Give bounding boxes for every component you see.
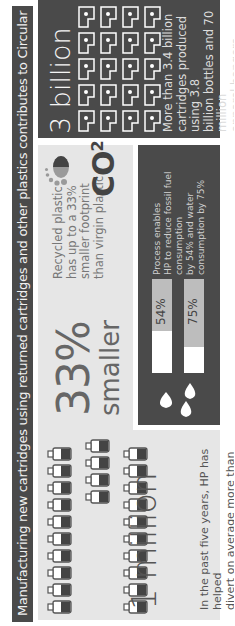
footprint-icon [44,149,74,189]
fossil-fuel-bar-label: 54% [154,298,168,325]
cartridge-icon [100,6,117,28]
cartridge-icon [122,32,139,54]
percent-stat: 33% [52,321,96,416]
cartridge-icon [122,84,139,106]
co2-label: CO2 [82,141,120,197]
bottle-icon [46,566,72,580]
bottle-icon [84,490,110,504]
cartridge-icon [122,6,139,28]
one-million-stat: 1 million [124,473,164,610]
bottles-caption: In the past five years, HP has helped di… [198,430,234,610]
caption-line: cartridges produced using 3.8 [176,0,203,132]
bottles-panel: 1 million In the past five years, HP has… [38,430,220,620]
bottle-icon [46,464,72,478]
bottle-icon [84,473,110,487]
cartridge-icon [122,110,139,132]
co2-text: CO [86,151,121,197]
bottle-icon [46,532,72,546]
caption-line: by 54% and water [185,147,196,275]
bottle-icon [46,549,72,563]
bottle-icon [46,447,72,461]
cartridge-icon [144,58,161,80]
bottle-icon [46,583,72,597]
cartridge-icon [100,110,117,132]
three-billion-stat: 3 billion [46,27,76,134]
infographic-title: Manufacturing new cartridges using retur… [12,6,33,622]
caption-line: In the past five years, HP has helped [198,430,224,610]
cartridge-icon [144,32,161,54]
cartridge-row [144,6,161,132]
cartridge-row [78,6,95,132]
cartridge-icon [78,110,95,132]
caption-line: Process enables [152,147,163,275]
bottle-row [46,447,72,614]
cartridge-icon [100,32,117,54]
caption-line: billion bottles and 70 million [203,0,230,132]
water-drops-icon [156,379,202,421]
cartridge-icon [78,6,95,28]
bottle-row [84,439,110,504]
bottle-icon [84,439,110,453]
caption-line: apparel hangers [230,0,235,132]
bottle-icon [46,481,72,495]
cartridge-icon [78,32,95,54]
water-panel: 54% 75% Process enables HP to reduce fos… [138,145,220,425]
cartridge-row [100,6,117,132]
footprint-panel: Recycled plastic has up to a 33% smaller… [38,145,133,285]
billion-caption: More than 3.4 billion cartridges produce… [162,0,234,132]
bottle-icon [46,600,72,614]
cartridge-grid [78,6,166,132]
three-billion-panel: 3 billion More than 3.4 billion cartridg… [38,0,220,138]
cartridge-icon [78,84,95,106]
cartridge-row [122,6,139,132]
infographic: Manufacturing new cartridges using retur… [0,0,234,626]
water-caption: Process enables HP to reduce fossil fuel… [152,147,207,275]
co2-subscript: 2 [88,141,107,151]
smaller-label: smaller [96,320,124,416]
cartridge-icon [144,6,161,28]
caption-line: divert on average more than [224,430,234,610]
bottle-icon [122,447,148,461]
cartridge-icon [122,58,139,80]
bottle-icon [46,498,72,512]
caption-line: consumption [174,147,185,275]
cartridge-icon [100,58,117,80]
caption-line: HP to reduce fossil fuel [163,147,174,275]
percent-smaller-panel: 33% smaller [38,285,133,430]
cartridge-icon [78,58,95,80]
caption-line: More than 3.4 billion [162,0,176,132]
cartridge-icon [100,84,117,106]
caption-line: consumption by 75% [196,147,207,275]
bottle-icon [46,515,72,529]
cartridge-icon [144,84,161,106]
water-bar-label: 75% [186,298,200,325]
cartridge-icon [144,110,161,132]
bottle-icon [84,456,110,470]
